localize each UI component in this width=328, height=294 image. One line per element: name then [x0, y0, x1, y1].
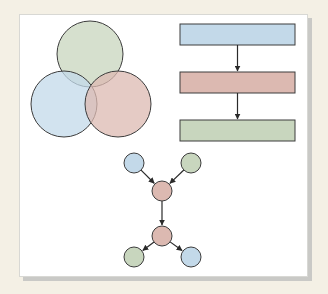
graph-node-n2 [181, 153, 201, 173]
node-graph [124, 153, 201, 267]
venn-diagram [31, 21, 151, 137]
graph-node-n5 [124, 247, 144, 267]
flowchart [180, 24, 295, 141]
venn-circle-right [85, 71, 151, 137]
diagram-canvas [0, 0, 328, 294]
flow-box-step-1 [180, 24, 295, 45]
graph-edge [170, 242, 182, 251]
graph-edge [143, 242, 154, 250]
graph-node-n3 [152, 181, 172, 201]
graph-node-n1 [124, 153, 144, 173]
graph-node-n4 [152, 226, 172, 246]
graph-node-n6 [181, 247, 201, 267]
flow-box-step-3 [180, 120, 295, 141]
page-background [0, 0, 328, 294]
flow-box-step-2 [180, 72, 295, 93]
graph-edge [170, 170, 184, 183]
graph-edge [141, 170, 154, 183]
